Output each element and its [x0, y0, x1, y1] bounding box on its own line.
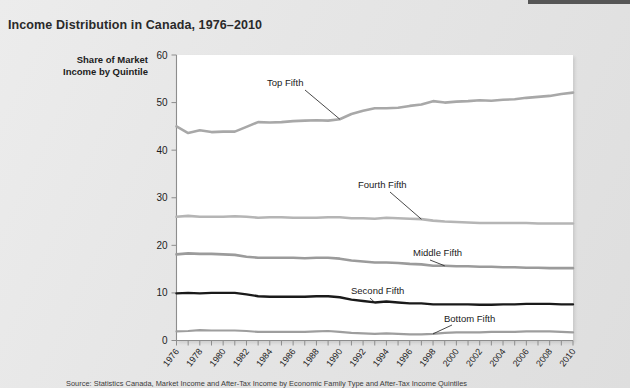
source-note: Source: Statistics Canada, Market Income… [66, 379, 467, 388]
series-label-top-fifth: Top Fifth [267, 77, 303, 88]
x-tick-label-1984: 1984 [254, 347, 274, 369]
x-tick-label-2008: 2008 [534, 347, 554, 369]
chart-container: 0102030405060 19761978198019821984198619… [0, 0, 630, 388]
y-tick-label-10: 10 [156, 287, 168, 298]
x-tick-label-1978: 1978 [184, 347, 204, 369]
x-tick-label-1982: 1982 [231, 347, 251, 369]
series-line-middle-fifth [177, 253, 574, 268]
x-axis-ticks: 1976197819801982198419861988199019921994… [161, 341, 578, 369]
y-tick-label-0: 0 [162, 335, 168, 346]
x-tick-label-1986: 1986 [277, 347, 297, 369]
x-tick-label-1992: 1992 [347, 347, 367, 369]
series-label-middle-fifth: Middle Fifth [413, 247, 462, 258]
data-series-group [177, 93, 574, 335]
line-chart: 0102030405060 19761978198019821984198619… [0, 0, 630, 388]
y-axis-ticks: 0102030405060 [156, 50, 176, 347]
series-line-bottom-fifth [177, 330, 574, 334]
x-tick-label-1994: 1994 [371, 347, 391, 369]
axis-lines [176, 55, 573, 341]
x-tick-label-2004: 2004 [487, 347, 507, 369]
y-tick-label-40: 40 [156, 145, 168, 156]
x-tick-label-2002: 2002 [464, 347, 484, 369]
x-tick-label-2010: 2010 [557, 347, 577, 369]
x-tick-label-1980: 1980 [208, 347, 228, 369]
series-annotations: Top FifthFourth FifthMiddle FifthSecond … [267, 77, 495, 334]
y-tick-label-30: 30 [156, 192, 168, 203]
x-tick-label-1996: 1996 [394, 347, 414, 369]
x-tick-label-1988: 1988 [301, 347, 321, 369]
y-tick-label-50: 50 [156, 97, 168, 108]
series-label-fourth-fifth: Fourth Fifth [358, 179, 407, 190]
series-leader-top-fifth [305, 90, 340, 119]
series-label-bottom-fifth: Bottom Fifth [444, 313, 495, 324]
series-leader-fourth-fifth [390, 192, 421, 219]
series-line-fourth-fifth [177, 216, 574, 224]
series-line-top-fifth [177, 93, 574, 133]
x-tick-label-2000: 2000 [441, 347, 461, 369]
x-tick-label-1990: 1990 [324, 347, 344, 369]
series-label-second-fifth: Second Fifth [351, 285, 404, 296]
y-tick-label-20: 20 [156, 240, 168, 251]
x-tick-label-1998: 1998 [417, 347, 437, 369]
x-tick-label-2006: 2006 [511, 347, 531, 369]
y-tick-label-60: 60 [156, 50, 168, 61]
x-tick-label-1976: 1976 [161, 347, 181, 369]
